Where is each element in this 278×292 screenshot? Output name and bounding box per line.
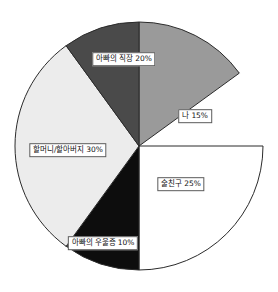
pie-slice-label-5: 아빠의 직장 20% bbox=[92, 52, 155, 66]
pie-slice-label-1: 나 15% bbox=[178, 109, 212, 123]
pie-slice-2[interactable] bbox=[139, 146, 263, 270]
pie-slice-label-2: 술친구 25% bbox=[157, 177, 204, 191]
pie-slice-label-4: 할머니/할아버지 30% bbox=[29, 143, 106, 157]
pie-slice-1[interactable] bbox=[139, 22, 239, 146]
pie-slice-label-3: 아빠의 우울증 10% bbox=[68, 236, 138, 250]
pie-chart-figure: 나 15%술친구 25%아빠의 우울증 10%할머니/할아버지 30%아빠의 직… bbox=[0, 0, 278, 292]
